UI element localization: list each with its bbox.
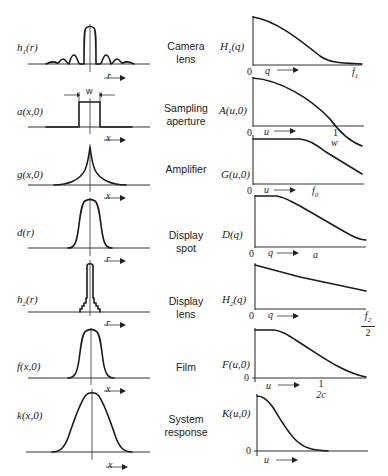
axis-label-u: u [264, 454, 269, 465]
plot-f-spatial [28, 328, 150, 394]
axis-label-x: x [106, 132, 110, 143]
label-k-spatial: k(x,0) [17, 409, 42, 421]
origin-zero: 0 [244, 372, 249, 383]
stage-display-spot: Displayspot [146, 229, 226, 254]
plot-A-freq [253, 77, 364, 146]
origin-zero: 0 [247, 185, 252, 196]
stage-system-response: Systemresponse [146, 413, 226, 438]
label-f-spatial: f(x,0) [17, 360, 41, 372]
axis-label-q: q [268, 309, 273, 320]
plot-g-spatial [28, 144, 150, 201]
label-h2-spatial: h2(r) [17, 293, 38, 308]
origin-zero: 0 [247, 66, 252, 77]
stage-film: Film [146, 361, 226, 374]
stage-amplifier: Amplifier [146, 163, 226, 176]
tick-f2-over-2: f2 2 [361, 310, 375, 338]
label-d-spatial: d(r) [17, 226, 34, 238]
plot-h1-spatial [28, 24, 150, 81]
axis-label-r: r [106, 317, 110, 328]
label-A-freq: A(u,0) [219, 104, 247, 116]
axis-label-x: x [108, 459, 112, 470]
tick-f0: f0 [312, 185, 318, 199]
label-H1-freq: H1(q) [220, 40, 244, 55]
tick-w: w [331, 137, 338, 148]
plot-G-freq [253, 135, 364, 193]
axis-label-u: u [264, 184, 269, 195]
axis-label-x: x [106, 190, 110, 201]
label-a-spatial: a(x,0) [17, 105, 43, 117]
tick-1-over-2c: 1 2c [312, 378, 330, 400]
stage-camera-lens: Cameralens [146, 40, 226, 65]
label-D-freq: D(q) [222, 228, 243, 240]
axis-label-r: r [106, 253, 110, 264]
label-K-freq: K(u,0) [222, 407, 250, 419]
label-G-freq: G(u,0) [221, 168, 250, 180]
axis-label-x: x [106, 383, 110, 394]
origin-zero: 0 [249, 310, 254, 321]
tick-a: a [313, 249, 318, 260]
plot-d-spatial [28, 198, 150, 264]
plot-h2-spatial [28, 260, 150, 328]
stage-sampling-aperture: Samplingaperture [146, 102, 226, 127]
origin-zero: 0 [247, 127, 252, 138]
origin-zero: 0 [246, 445, 251, 456]
tick-f1: f1 [352, 66, 358, 80]
width-marker-w: w [86, 86, 93, 96]
label-F-freq: F(u,0) [222, 358, 250, 370]
plot-F-freq [252, 328, 366, 388]
axis-label-q: q [268, 247, 273, 258]
label-h1-spatial: h1(r) [17, 41, 38, 56]
plot-k-spatial [26, 389, 150, 470]
origin-zero: 0 [249, 248, 254, 259]
label-g-spatial: g(x,0) [17, 168, 43, 180]
axis-label-q: q [265, 65, 270, 76]
plot-a-spatial [28, 92, 150, 143]
axis-label-u: u [266, 380, 271, 391]
axis-label-u: u [264, 126, 269, 137]
stage-display-lens: Displaylens [146, 295, 226, 320]
plot-K-freq [254, 394, 368, 463]
axis-label-r: r [107, 70, 111, 81]
label-H2-freq: H2(q) [222, 293, 246, 308]
